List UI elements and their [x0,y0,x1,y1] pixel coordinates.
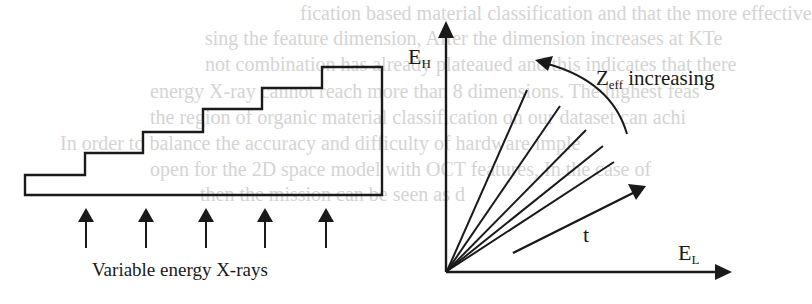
x-axis [446,264,732,280]
ray-line [447,146,603,271]
xray-caption: Variable energy X-rays [92,259,268,281]
xray-arrows [78,208,334,248]
thickness-label: t [583,222,589,248]
step-wedge [25,67,382,195]
ray-line [447,106,560,271]
y-axis [438,21,454,272]
up-arrow-icon [78,208,94,248]
up-arrow-icon [318,208,334,248]
ray-line [447,130,586,271]
up-arrow-icon [257,208,273,248]
y-axis-label: EH [408,44,431,70]
up-arrow-icon [138,208,154,248]
up-arrow-icon [198,208,214,248]
thickness-arrow [513,184,646,253]
zeff-increasing-label: Zeff increasing [596,66,715,91]
x-axis-label: EL [678,240,699,266]
